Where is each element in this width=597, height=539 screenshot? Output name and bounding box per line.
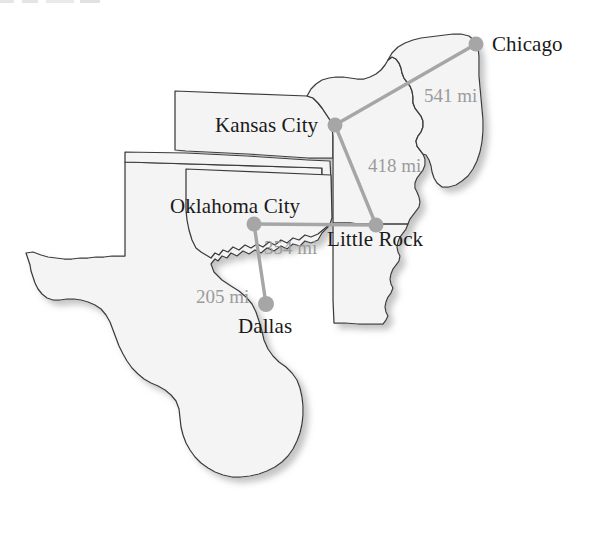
city-label-little-rock: Little Rock — [327, 229, 423, 250]
distance-label-chicago-kansas-city: 541 mi — [424, 86, 477, 105]
route-map: Chicago Kansas City Little Rock Oklahoma… — [0, 0, 597, 539]
city-label-chicago: Chicago — [492, 34, 563, 55]
distance-label-oklahoma-city-dallas: 205 mi — [196, 287, 249, 306]
city-marker-oklahoma-city[interactable] — [247, 217, 262, 232]
city-label-kansas-city: Kansas City — [215, 115, 318, 136]
distance-label-oklahoma-city-little-rock: 354 mi — [264, 238, 317, 257]
map-canvas — [0, 0, 597, 539]
route-line-little-rock-oklahoma-city — [254, 224, 376, 225]
city-label-oklahoma-city: Oklahoma City — [170, 196, 300, 217]
city-label-dallas: Dallas — [238, 316, 292, 337]
state-shapes — [26, 34, 483, 477]
distance-label-kansas-city-little-rock: 418 mi — [368, 156, 421, 175]
city-marker-kansas-city[interactable] — [328, 118, 343, 133]
city-marker-dallas[interactable] — [258, 296, 274, 312]
city-marker-chicago[interactable] — [469, 37, 484, 52]
